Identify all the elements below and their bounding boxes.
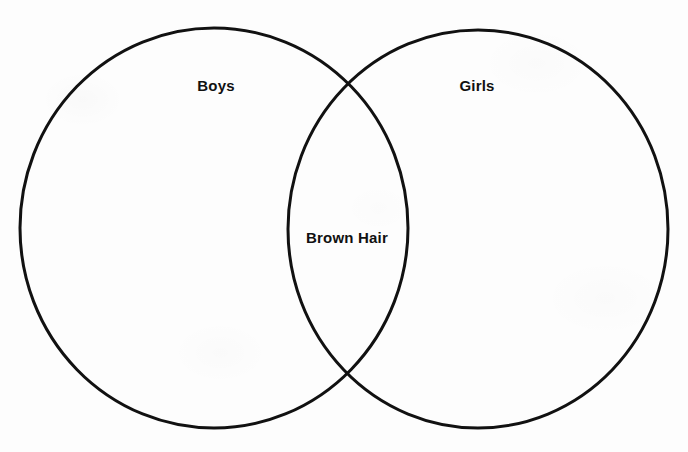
left-set-label: Boys: [197, 77, 234, 94]
right-set-label: Girls: [459, 77, 494, 94]
venn-diagram-canvas: [0, 0, 688, 452]
venn-diagram: Boys Girls Brown Hair: [0, 0, 688, 452]
intersection-label: Brown Hair: [306, 229, 388, 246]
